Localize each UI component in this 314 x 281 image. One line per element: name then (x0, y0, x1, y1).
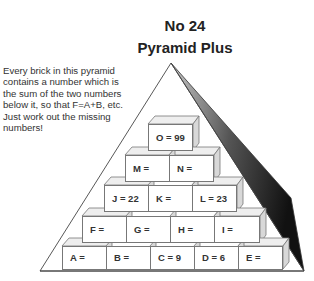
brick-n: N = (169, 155, 214, 182)
brick-j: J = 22 (104, 185, 149, 212)
brick-m: M = (125, 155, 170, 182)
brick-e: E = (238, 246, 283, 270)
brick-l: L = 23 (192, 185, 237, 212)
brick-h: H = (170, 216, 215, 243)
brick-d: D = 6 (194, 246, 239, 270)
brick-a: A = (62, 246, 107, 270)
brick-f: F = (82, 216, 127, 243)
brick-g: G = (126, 216, 171, 243)
brick-c: C = 9 (150, 246, 195, 270)
brick-i: I = (214, 216, 260, 243)
brick-o: O = 99 (148, 124, 193, 151)
brick-b: B = (106, 246, 151, 270)
brick-k: K = (148, 185, 193, 212)
